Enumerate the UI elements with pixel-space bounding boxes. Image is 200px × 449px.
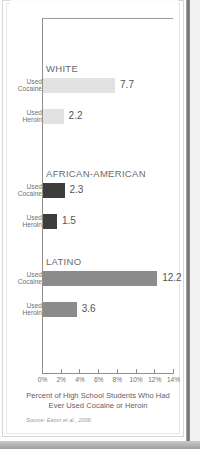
plot-top-rule [42, 18, 173, 19]
bar-value-label: 3.6 [82, 303, 96, 314]
bar [43, 183, 65, 198]
bar-row: UsedCocaine2.3 [8, 183, 178, 198]
bar [43, 271, 157, 286]
bar-label-line2: Heroin [8, 116, 42, 123]
bar-label-line1: Used [8, 183, 42, 190]
x-axis-caption: Percent of High School Students Who Had … [22, 391, 174, 411]
bar-label-line2: Heroin [8, 221, 42, 228]
bar-value-label: 12.2 [162, 272, 181, 283]
x-tick [173, 369, 174, 374]
bar-category-label: UsedCocaine [8, 271, 42, 286]
bar-label-line2: Heroin [8, 309, 42, 316]
bar-value-label: 7.7 [120, 79, 134, 90]
page-bottom-band [0, 441, 200, 449]
bar-label-line2: Cocaine [8, 278, 42, 285]
bar-label-line1: Used [8, 78, 42, 85]
x-tick [79, 369, 80, 374]
bar-category-label: UsedCocaine [8, 78, 42, 93]
bar-chart: WHITEUsedCocaine7.7UsedHeroin2.2AFRICAN-… [8, 8, 178, 432]
x-tick-label: 4% [75, 376, 85, 383]
bar-row: UsedHeroin2.2 [8, 109, 178, 124]
bar-label-line2: Cocaine [8, 190, 42, 197]
bar [43, 78, 115, 93]
bar-label-line2: Cocaine [8, 85, 42, 92]
bar-value-label: 2.2 [69, 110, 83, 121]
bar [43, 109, 64, 124]
group-title: LATINO [46, 256, 81, 267]
scanned-page: WHITEUsedCocaine7.7UsedHeroin2.2AFRICAN-… [0, 0, 200, 449]
x-tick-label: 0% [38, 376, 48, 383]
group-title: AFRICAN-AMERICAN [46, 168, 146, 179]
bar-category-label: UsedHeroin [8, 109, 42, 124]
x-tick-label: 6% [94, 376, 104, 383]
bar-category-label: UsedHeroin [8, 302, 42, 317]
x-tick-label: 10% [129, 376, 142, 383]
bar-category-label: UsedHeroin [8, 214, 42, 229]
x-tick [154, 369, 155, 374]
x-tick-label: 8% [113, 376, 123, 383]
bar-row: UsedHeroin1.5 [8, 214, 178, 229]
x-tick [42, 369, 43, 374]
bar-label-line1: Used [8, 302, 42, 309]
bar-row: UsedHeroin3.6 [8, 302, 178, 317]
bar-row: UsedCocaine7.7 [8, 78, 178, 93]
x-tick-label: 12% [148, 376, 161, 383]
x-tick [136, 369, 137, 374]
bar-value-label: 2.3 [70, 184, 84, 195]
bar-category-label: UsedCocaine [8, 183, 42, 198]
spine-gutter [190, 0, 200, 441]
source-note: Source: Eaton et al., 2006. [26, 417, 166, 423]
x-tick [98, 369, 99, 374]
bar-label-line1: Used [8, 214, 42, 221]
x-tick [117, 369, 118, 374]
bar [43, 214, 57, 229]
x-tick-label: 14% [167, 376, 180, 383]
bar-label-line1: Used [8, 271, 42, 278]
group-title: WHITE [46, 63, 78, 74]
bar-row: UsedCocaine12.2 [8, 271, 178, 286]
bar-value-label: 1.5 [62, 215, 76, 226]
page-top-bleed [10, 0, 178, 4]
x-tick [61, 369, 62, 374]
bar-label-line1: Used [8, 109, 42, 116]
bar [43, 302, 77, 317]
x-tick-label: 2% [56, 376, 66, 383]
